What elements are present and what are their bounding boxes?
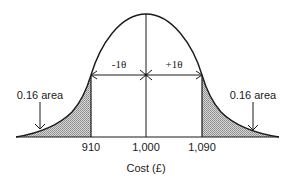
mean-point	[145, 74, 148, 77]
right-tail-label: 0.16 area	[230, 89, 277, 101]
plus-sigma-label: +1θ	[166, 58, 183, 70]
tick-label-910: 910	[82, 141, 100, 153]
tick-label-1000: 1,000	[132, 141, 160, 153]
normal-distribution-diagram: -1θ +1θ 0.16 area 0.16 area 910 1,000 1,…	[0, 0, 293, 179]
minus-sigma-label: -1θ	[112, 58, 126, 70]
left-tail-label: 0.16 area	[17, 89, 64, 101]
left-tail-arrow-icon	[35, 102, 45, 129]
right-tail-arrow-icon	[248, 102, 258, 130]
left-tail-shading	[16, 75, 91, 137]
x-axis-label: Cost (£)	[126, 162, 165, 174]
right-tail-shading	[202, 75, 279, 137]
tick-label-1090: 1,090	[188, 141, 216, 153]
